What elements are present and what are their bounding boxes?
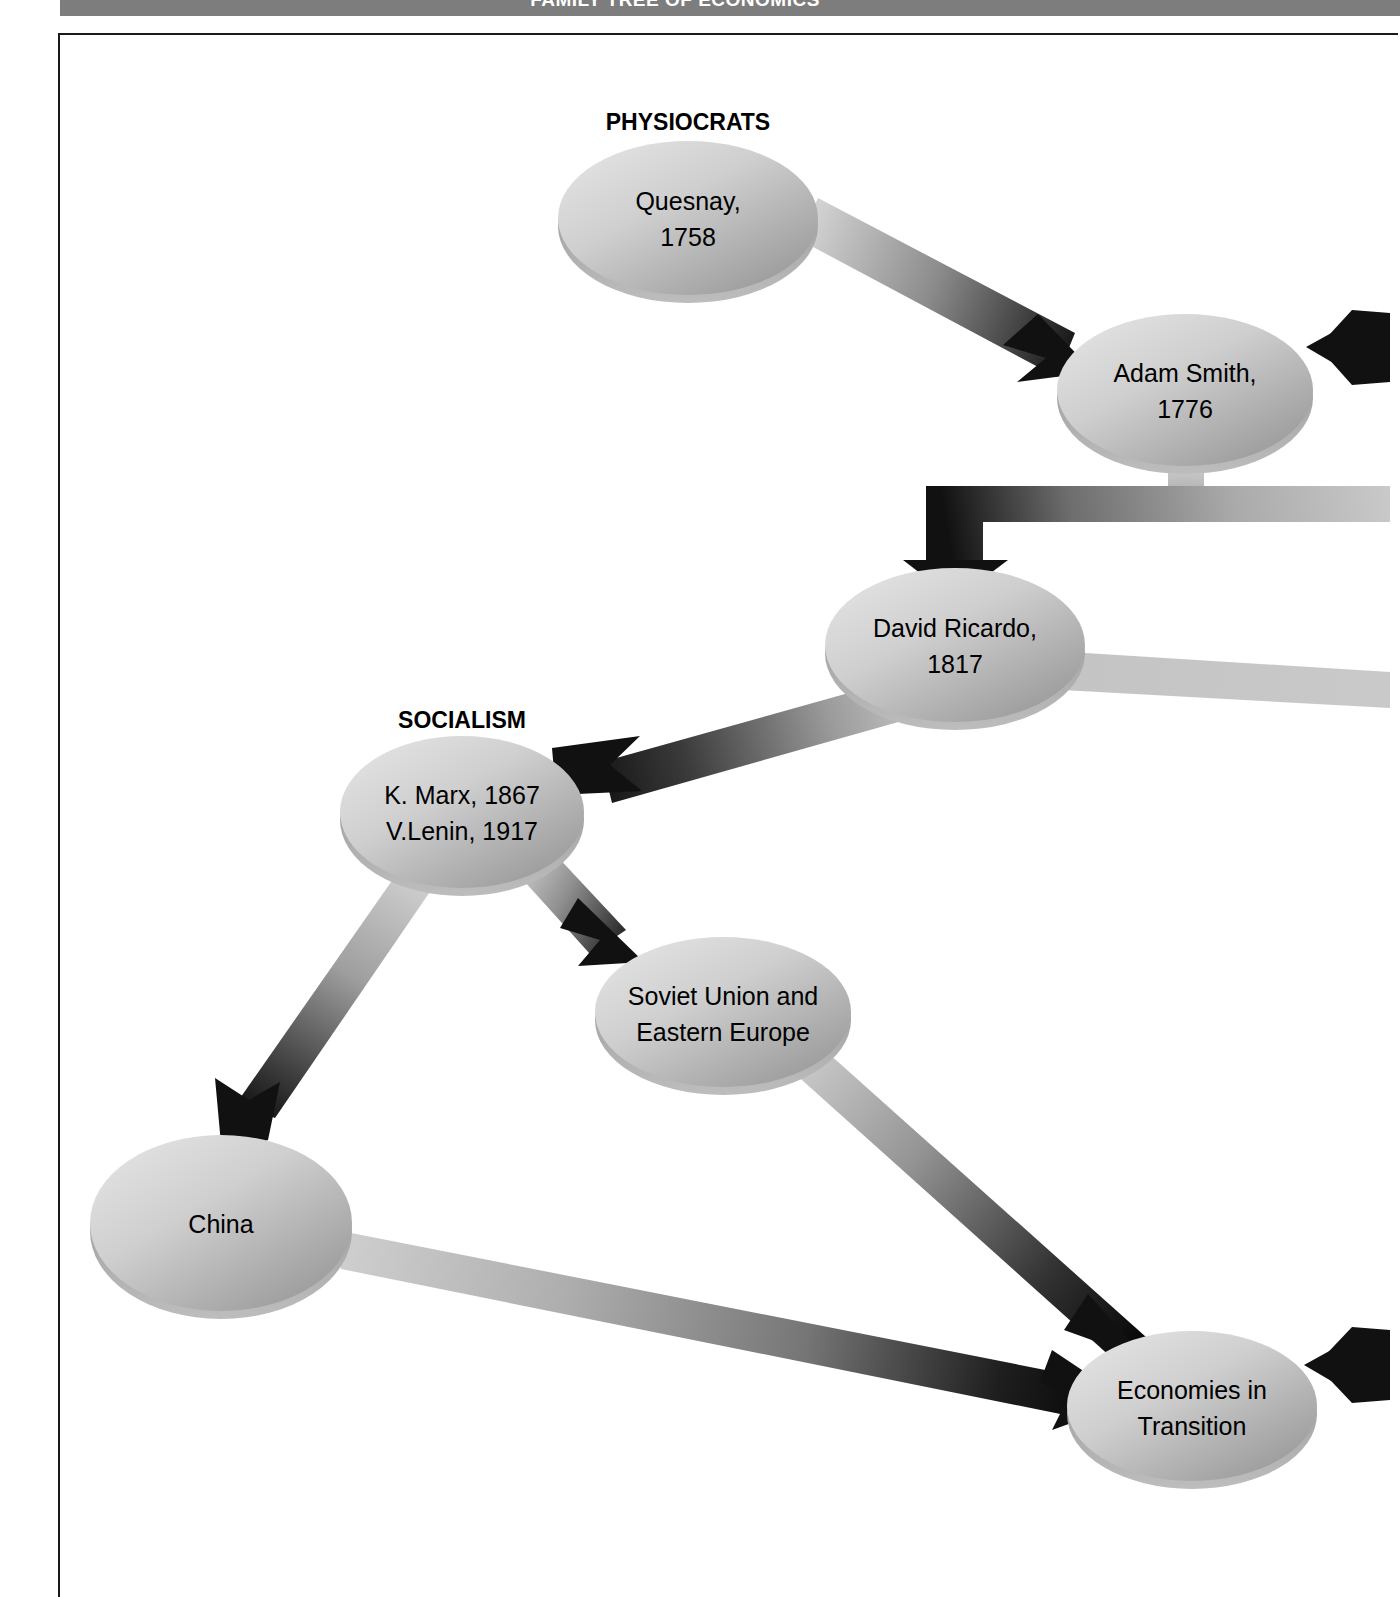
node-adam-smith-line-2: 1776 — [1157, 395, 1213, 423]
node-economies-in-transition-line-1: Economies in — [1117, 1376, 1267, 1404]
page-frame-top-rule — [58, 33, 1398, 35]
node-soviet-union-line-2: Eastern Europe — [636, 1018, 810, 1046]
node-economies-in-transition[interactable]: Economies in Transition — [1067, 1331, 1317, 1489]
header-bar: FAMILY TREE OF ECONOMICS — [60, 0, 1400, 16]
node-david-ricardo-line-2: 1817 — [927, 650, 983, 678]
node-adam-smith[interactable]: Adam Smith, 1776 — [1057, 314, 1313, 474]
node-soviet-union-line-1: Soviet Union and — [628, 982, 818, 1010]
node-marx-lenin[interactable]: K. Marx, 1867 V.Lenin, 1917 — [340, 736, 584, 896]
node-marx-lenin-line-2: V.Lenin, 1917 — [386, 817, 538, 845]
node-quesnay-line-1: Quesnay, — [635, 187, 740, 215]
page-title: FAMILY TREE OF ECONOMICS — [60, 0, 1290, 11]
node-adam-smith-line-1: Adam Smith, — [1113, 359, 1256, 387]
page-frame-left-rule — [58, 33, 60, 1597]
node-quesnay[interactable]: Quesnay, 1758 — [558, 141, 818, 303]
node-quesnay-line-2: 1758 — [660, 223, 716, 251]
group-label-socialism: SOCIALISM — [398, 707, 526, 733]
edge-marx-to-china — [215, 872, 438, 1155]
group-label-physiocrats: PHYSIOCRATS — [606, 109, 770, 135]
node-soviet-union[interactable]: Soviet Union and Eastern Europe — [595, 937, 851, 1095]
node-economies-in-transition-line-2: Transition — [1138, 1412, 1247, 1440]
node-china-label: China — [188, 1210, 253, 1238]
edge-soviet-union-to-transition — [783, 1044, 1164, 1378]
node-marx-lenin-line-1: K. Marx, 1867 — [384, 781, 540, 809]
edge-offscreen-to-transition — [1304, 1327, 1390, 1403]
edge-david-ricardo-to-offscreen-right — [1062, 652, 1390, 708]
node-china[interactable]: China — [90, 1135, 352, 1319]
node-david-ricardo-line-1: David Ricardo, — [873, 614, 1037, 642]
node-david-ricardo[interactable]: David Ricardo, 1817 — [825, 568, 1085, 730]
edge-quesnay-to-adam-smith — [800, 198, 1094, 382]
edge-offscreen-to-adam-smith — [1306, 310, 1390, 385]
